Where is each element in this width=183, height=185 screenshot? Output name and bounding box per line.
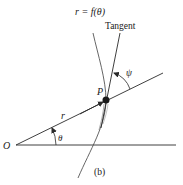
psi-label: ψ — [126, 68, 133, 78]
radius-label: r — [61, 110, 65, 121]
polar-tangent-diagram: r = f(θ) Tangent P r θ ψ O (b) — [0, 0, 183, 185]
curve-label: r = f(θ) — [75, 6, 106, 18]
origin-label: O — [3, 140, 10, 151]
polar-curve — [78, 33, 106, 178]
theta-arc — [52, 128, 56, 145]
theta-label: θ — [58, 133, 63, 143]
point-p-dot — [103, 97, 110, 104]
tangent-label: Tangent — [105, 21, 136, 31]
radius-arrow — [80, 102, 103, 114]
point-p-label: P — [96, 86, 103, 97]
figure-caption: (b) — [94, 167, 105, 178]
